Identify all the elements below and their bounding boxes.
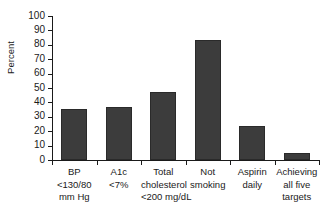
category-label-line: Aspirin xyxy=(230,166,275,179)
y-tick-label: 20 xyxy=(34,125,45,137)
x-tick xyxy=(97,160,98,165)
category-label-line: <130/80 xyxy=(52,179,97,192)
category-label-line: <7% xyxy=(97,179,142,192)
bar-slot xyxy=(230,16,275,160)
y-axis-title: Percent xyxy=(5,23,16,93)
category-label-line: mm Hg xyxy=(52,191,97,204)
x-tick xyxy=(141,160,142,165)
x-tick xyxy=(52,160,53,165)
y-tick-label: 60 xyxy=(34,67,45,79)
category-label-line: Achieving xyxy=(275,166,320,179)
y-tick-label: 40 xyxy=(34,96,45,108)
category-label-line: Not xyxy=(186,166,231,179)
y-tick-label: 90 xyxy=(34,24,45,36)
bar-slot xyxy=(141,16,186,160)
category-label: A1c<7% xyxy=(97,166,142,191)
x-axis-category-labels: BP<130/80mm HgA1c<7%Totalcholesterol<200… xyxy=(52,166,319,218)
bar-slot xyxy=(275,16,320,160)
bar-slot xyxy=(97,16,142,160)
x-tick xyxy=(230,160,231,165)
x-tick xyxy=(275,160,276,165)
bar xyxy=(284,153,310,160)
y-tick-label: 0 xyxy=(39,154,45,166)
category-label-line: Total xyxy=(141,166,186,179)
y-tick-label: 10 xyxy=(34,139,45,151)
category-label-line: <200 mg/dL xyxy=(141,191,186,204)
bar xyxy=(239,126,265,160)
y-tick-label: 30 xyxy=(34,110,45,122)
category-label-line: daily xyxy=(230,179,275,192)
y-tick-label: 50 xyxy=(34,82,45,94)
category-label: BP<130/80mm Hg xyxy=(52,166,97,204)
plot-area: 0102030405060708090100 xyxy=(52,16,319,160)
bar xyxy=(195,40,221,160)
bar-chart: Percent 0102030405060708090100 BP<130/80… xyxy=(0,0,327,219)
x-tick xyxy=(319,160,320,165)
x-tick xyxy=(186,160,187,165)
category-label: Totalcholesterol<200 mg/dL xyxy=(141,166,186,204)
bar xyxy=(150,92,176,160)
y-tick-label: 80 xyxy=(34,38,45,50)
y-tick-label: 70 xyxy=(34,53,45,65)
bar xyxy=(106,107,132,160)
category-label: Notsmoking xyxy=(186,166,231,191)
bar-slot xyxy=(186,16,231,160)
category-label-line: smoking xyxy=(186,179,231,192)
category-label: Achievingall fivetargets xyxy=(275,166,320,204)
category-label-line: BP xyxy=(52,166,97,179)
category-label-line: targets xyxy=(275,191,320,204)
y-tick-label: 100 xyxy=(28,10,45,22)
category-label-line: A1c xyxy=(97,166,142,179)
category-label-line: cholesterol xyxy=(141,179,186,192)
bar-slot xyxy=(52,16,97,160)
bar xyxy=(61,109,87,160)
category-label: Aspirindaily xyxy=(230,166,275,191)
category-label-line: all five xyxy=(275,179,320,192)
bar-series xyxy=(52,16,319,160)
